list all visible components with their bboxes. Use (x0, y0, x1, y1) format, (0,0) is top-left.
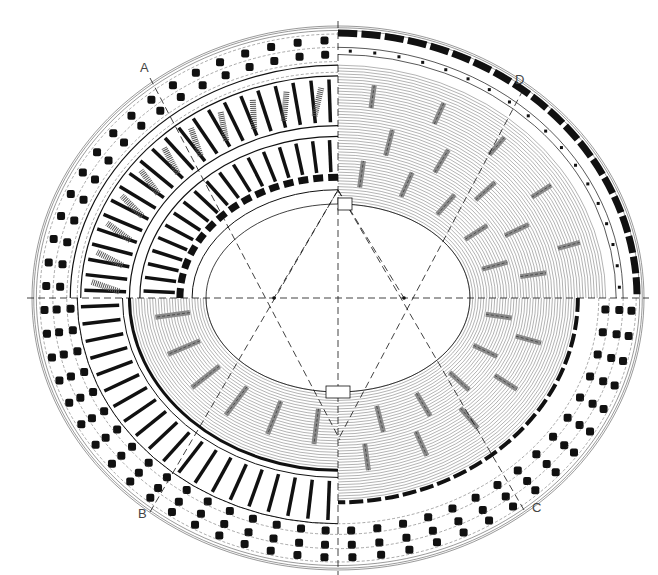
section-label-c: C (532, 500, 541, 515)
section-label-b: B (138, 506, 147, 521)
labels-layer: A B C D (0, 0, 658, 575)
section-label-d: D (515, 72, 524, 87)
section-label-a: A (140, 60, 149, 75)
amphitheater-plan-diagram: A B C D (0, 0, 658, 575)
